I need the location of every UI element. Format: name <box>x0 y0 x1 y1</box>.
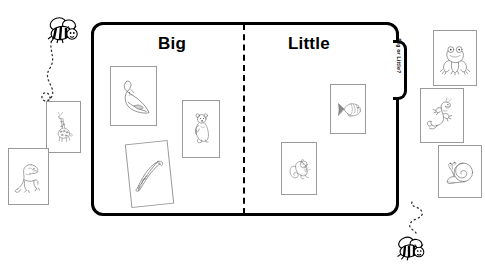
top-cut-text <box>0 0 485 9</box>
lizard-icon <box>421 89 463 142</box>
squirrel-icon <box>282 143 316 194</box>
bee-icon <box>397 235 424 260</box>
alligator-icon <box>126 141 173 207</box>
fish-icon <box>331 85 365 133</box>
board-divider <box>243 24 245 214</box>
frog-icon <box>434 31 476 85</box>
picture-card-alligator[interactable] <box>125 140 174 208</box>
picture-card-dinosaur[interactable] <box>8 148 49 205</box>
dotted-trail <box>42 34 56 101</box>
picture-card-bear[interactable] <box>182 100 220 158</box>
whale-icon <box>111 67 156 125</box>
snail-icon <box>439 146 481 197</box>
column-heading-big: Big <box>158 34 186 54</box>
worksheet-canvas: Big Little Big or Little? <box>0 0 485 264</box>
bear-icon <box>183 101 219 157</box>
board-tab-label: Big or Little? <box>396 36 402 76</box>
picture-card-whale[interactable] <box>110 66 157 126</box>
dotted-trail <box>410 202 422 236</box>
bee-top-left <box>34 12 84 114</box>
picture-card-squirrel[interactable] <box>281 142 317 195</box>
bee-bottom-right <box>396 198 452 262</box>
picture-card-lizard[interactable] <box>420 88 464 143</box>
picture-card-snail[interactable] <box>438 145 482 198</box>
picture-card-fish[interactable] <box>330 84 366 134</box>
picture-card-frog[interactable] <box>433 30 477 86</box>
column-heading-little: Little <box>288 34 330 54</box>
dinosaur-icon <box>9 149 48 204</box>
